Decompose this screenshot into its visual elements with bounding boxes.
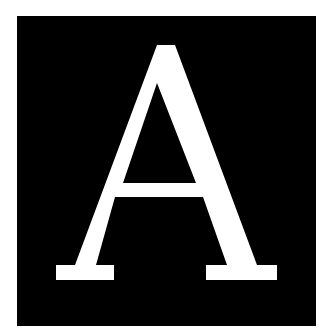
letter-a-glyph-icon	[17, 16, 316, 326]
letter-tile: A	[17, 16, 316, 326]
